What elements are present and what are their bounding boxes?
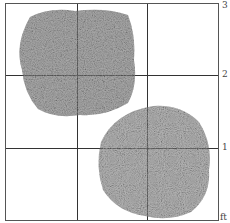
scale-label-2: 2 (222, 70, 228, 79)
scale-label-3: 3 (222, 1, 228, 10)
scale-unit-label: ft (220, 213, 227, 222)
scale-label-1: 1 (222, 143, 228, 152)
scale-frame (5, 3, 219, 221)
